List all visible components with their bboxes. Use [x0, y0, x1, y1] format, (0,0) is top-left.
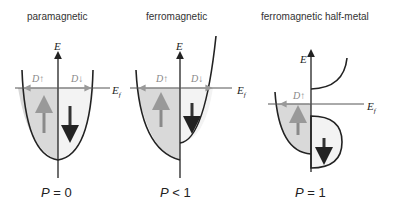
svg-text:E: E [175, 40, 183, 52]
svg-text:Ef: Ef [236, 84, 247, 99]
paramagnetic-diagram: E Ef D↑ D↓ [15, 40, 122, 178]
svg-text:D↑: D↑ [31, 73, 44, 84]
energy-axis-label: E [53, 40, 61, 52]
svg-text:E: E [299, 53, 307, 65]
svg-text:Ef: Ef [366, 100, 377, 115]
band-diagrams: E Ef D↑ D↓ E Ef D↑ D↓ E Ef D↑ [0, 0, 393, 211]
ferromagnetic-diagram: E Ef D↑ D↓ [130, 36, 247, 178]
svg-text:D↓: D↓ [190, 73, 203, 84]
svg-text:D↑: D↑ [155, 73, 168, 84]
half-metal-diagram: E Ef D↑ [268, 53, 377, 172]
polarization-label-half-metal: P = 1 [295, 185, 326, 200]
polarization-label-paramagnetic: P = 0 [41, 185, 72, 200]
svg-text:Ef: Ef [111, 84, 122, 99]
polarization-label-ferromagnetic: P < 1 [160, 185, 191, 200]
svg-text:D↑: D↑ [292, 90, 305, 101]
svg-text:D↓: D↓ [70, 73, 83, 84]
